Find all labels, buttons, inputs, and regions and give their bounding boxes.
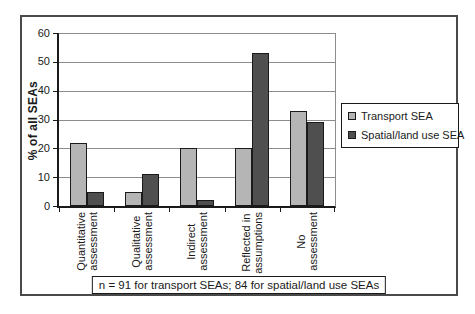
legend-swatch bbox=[348, 131, 356, 139]
figure-frame: % of all SEAs 0102030405060 Quantitative… bbox=[20, 15, 458, 296]
bar-transport-sea bbox=[180, 148, 197, 206]
y-axis-tick-label: 20 bbox=[22, 142, 50, 155]
legend-item: Transport SEA bbox=[348, 110, 454, 122]
bar-spatial-land-use-sea bbox=[252, 53, 269, 206]
x-axis-label: Reflected in assumptions bbox=[240, 212, 264, 274]
gridline-50 bbox=[59, 62, 335, 63]
bar-spatial-land-use-sea bbox=[307, 122, 324, 206]
x-axis-label: Indirect assessment bbox=[185, 212, 209, 271]
x-axis-label: No assessment bbox=[295, 212, 319, 271]
y-axis-tick bbox=[53, 148, 57, 149]
x-axis-label: Quantitative assessment bbox=[75, 212, 99, 271]
gridline-40 bbox=[59, 91, 335, 92]
legend-swatch bbox=[348, 112, 356, 120]
sample-size-note: n = 91 for transport SEAs; 84 for spatia… bbox=[92, 276, 386, 294]
y-axis-tick bbox=[53, 120, 57, 121]
y-axis-tick-label: 60 bbox=[22, 27, 50, 40]
y-axis-tick-label: 10 bbox=[22, 171, 50, 184]
y-axis-tick-label: 30 bbox=[22, 113, 50, 126]
legend: Transport SEASpatial/land use SEA bbox=[341, 103, 459, 148]
plot-area: 0102030405060 bbox=[57, 33, 336, 208]
y-axis-tick-label: 0 bbox=[22, 200, 50, 213]
bar-transport-sea bbox=[125, 192, 142, 206]
y-axis-tick-label: 40 bbox=[22, 84, 50, 97]
legend-item: Spatial/land use SEA bbox=[348, 129, 454, 141]
y-axis-tick bbox=[53, 177, 57, 178]
legend-label: Spatial/land use SEA bbox=[361, 129, 464, 141]
x-axis-label: Qualitative assessment bbox=[130, 212, 154, 271]
bar-spatial-land-use-sea bbox=[87, 192, 104, 206]
y-axis-tick bbox=[53, 206, 57, 207]
y-axis-tick bbox=[53, 33, 57, 34]
bar-spatial-land-use-sea bbox=[197, 200, 214, 206]
bar-transport-sea bbox=[290, 111, 307, 206]
bar-transport-sea bbox=[70, 143, 87, 206]
bar-spatial-land-use-sea bbox=[142, 174, 159, 206]
y-axis-tick bbox=[53, 62, 57, 63]
y-axis-tick bbox=[53, 91, 57, 92]
y-axis-tick-label: 50 bbox=[22, 55, 50, 68]
gridline-60 bbox=[59, 33, 335, 34]
bar-transport-sea bbox=[235, 148, 252, 206]
legend-label: Transport SEA bbox=[361, 110, 433, 122]
